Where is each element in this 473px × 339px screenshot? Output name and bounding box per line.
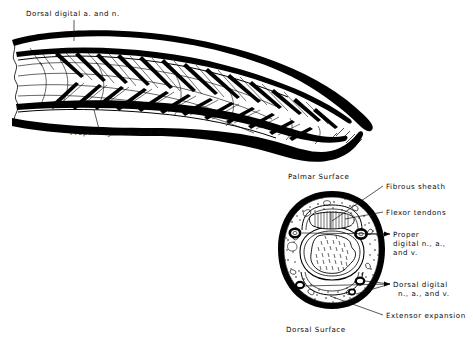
label-dorsal-digital-text: Dorsal digital a. and n. [26,9,120,18]
label-fibrous-sheath-text: Fibrous sheath [386,182,445,191]
label-dorsal-digital-nv-line1: Dorsal digital [393,280,448,289]
label-dorsal-surface: Dorsal Surface [286,325,346,334]
label-dorsal-digital-nv-line2: n., a., and v. [398,289,450,298]
proper-digital-neurovascular-bundle-left [290,229,300,237]
label-proper-digital-nv-line2: digital n., a., [393,239,446,248]
anatomy-figure: Dorsal digital a. and n. Proper digital … [0,0,473,339]
dorsal-digital-neurovascular-bundle-left [296,282,304,288]
label-extensor-expansion-text: Extensor expansion [386,311,466,320]
flexor-tendons [309,211,354,229]
label-flexor-tendons-text: Flexor tendons [386,208,446,217]
label-proper-digital-nv-line3: and v. [393,248,418,257]
label-palmar-surface: Palmar Surface [288,172,349,181]
label-proper-digital-text: Proper digital a. and n. [70,128,164,137]
label-proper-digital-nv-line1: Proper [393,230,419,239]
